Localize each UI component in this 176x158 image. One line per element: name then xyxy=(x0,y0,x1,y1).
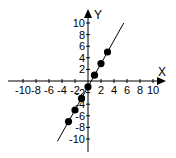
x-tick-label: 8 xyxy=(137,84,143,96)
x-tick-label: -6 xyxy=(44,84,54,96)
data-point xyxy=(91,72,98,79)
coordinate-plane-chart: X Y -10-8-6-4-2246810 -10-8-6-4-2246810 xyxy=(0,0,176,158)
x-tick-label: -8 xyxy=(31,84,41,96)
y-tick-label: 8 xyxy=(79,29,85,41)
x-tick-label: 10 xyxy=(147,84,159,96)
y-tick-label: 2 xyxy=(79,63,85,75)
y-axis-label: Y xyxy=(94,8,102,22)
y-axis-arrow-icon xyxy=(84,9,92,18)
axes: X Y xyxy=(8,8,166,152)
x-tick-label: 4 xyxy=(111,84,117,96)
x-tick-label: -4 xyxy=(57,84,67,96)
data-point xyxy=(84,83,91,90)
data-point xyxy=(97,60,104,67)
x-axis-label: X xyxy=(158,65,166,79)
y-tick-label: -8 xyxy=(75,121,85,133)
data-point xyxy=(78,95,85,102)
y-tick-label: 4 xyxy=(79,52,85,64)
y-tick-label: 6 xyxy=(79,40,85,52)
y-tick-label: 10 xyxy=(73,17,85,29)
y-tick-label: -10 xyxy=(69,133,85,145)
x-tick-label: 6 xyxy=(124,84,130,96)
data-point xyxy=(104,48,111,55)
x-tick-label: -10 xyxy=(15,84,31,96)
data-point xyxy=(65,118,72,125)
data-point xyxy=(71,106,78,113)
x-tick-label: 2 xyxy=(98,84,104,96)
